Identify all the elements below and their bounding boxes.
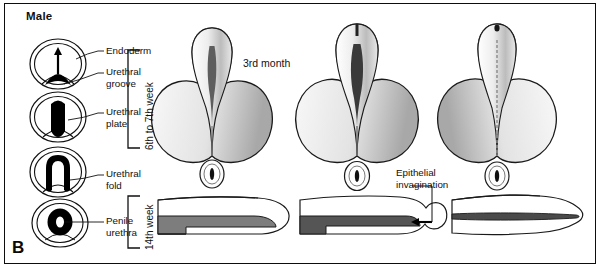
external-genitalia-1: [152, 28, 273, 188]
label-urethral-groove: Urethral groove: [106, 66, 141, 89]
longitudinal-section-1: [158, 197, 289, 234]
external-genitalia-3: [438, 24, 557, 190]
label-penile-urethra: Penile urethra: [106, 215, 137, 238]
label-epithelial-invagination: Epithelial invagination: [396, 167, 448, 190]
external-genitalia-2: [296, 24, 419, 191]
stage-label-early: 6th to 7th week: [144, 82, 155, 150]
label-urethral-fold: Urethral fold: [106, 168, 141, 191]
stage-label-late: 14th week: [144, 204, 155, 250]
longitudinal-section-2: [300, 196, 447, 234]
cross-section-urethral-plate: [30, 92, 86, 142]
diagram-canvas: [0, 0, 602, 269]
cross-section-urethral-fold: [30, 147, 86, 197]
cross-section-penile-urethra: [32, 199, 88, 247]
label-3rd-month: 3rd month: [243, 57, 290, 69]
stage-bracket-early: [128, 50, 140, 148]
label-urethral-plate: Urethral plate: [106, 106, 141, 129]
label-endoderm: Endoderm: [106, 45, 151, 57]
longitudinal-section-3: [452, 195, 583, 234]
figure-root: Male B: [0, 0, 602, 269]
cross-section-endoderm: [30, 39, 86, 89]
